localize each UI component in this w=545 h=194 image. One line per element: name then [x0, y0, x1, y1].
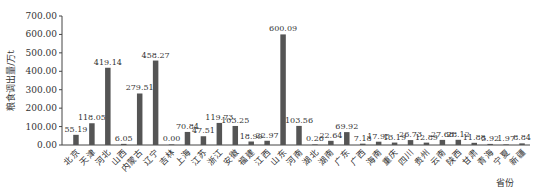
data-label: 47.51 — [192, 126, 215, 135]
data-label: 279.51 — [126, 83, 154, 92]
bar — [248, 142, 254, 145]
bar — [105, 68, 111, 145]
x-tick-label: 云南 — [428, 147, 448, 167]
y-tick-label: 300.00 — [26, 85, 58, 95]
x-tick-label: 辽宁 — [141, 147, 161, 167]
bar — [487, 144, 493, 145]
bar — [471, 143, 477, 145]
data-label: 0.00 — [163, 134, 181, 143]
x-tick-label: 广西 — [348, 147, 368, 167]
bar — [424, 143, 430, 145]
x-tick-label: 新疆 — [508, 147, 528, 167]
y-tick-label: 700.00 — [26, 11, 58, 21]
bar — [440, 140, 446, 145]
chart-canvas: 0.00100.00200.00300.00400.00500.00600.00… — [0, 0, 545, 194]
x-tick-label: 青海 — [476, 147, 496, 167]
x-tick-label: 福建 — [237, 147, 257, 167]
bar — [360, 144, 366, 145]
bar — [376, 142, 382, 145]
x-tick-label: 广东 — [332, 147, 352, 167]
x-tick-label: 贵州 — [412, 147, 432, 167]
bar — [312, 144, 318, 145]
x-tick-label: 甘肃 — [460, 147, 480, 167]
bar — [296, 126, 302, 145]
bar — [408, 140, 414, 145]
y-tick-label: 600.00 — [26, 29, 58, 39]
bar — [217, 123, 223, 145]
bar — [233, 126, 239, 145]
bar — [201, 136, 207, 145]
data-label: 118.05 — [78, 113, 106, 122]
bar — [519, 143, 525, 145]
x-tick-label: 江西 — [253, 147, 273, 167]
bar — [121, 144, 127, 145]
data-label: 69.92 — [335, 122, 358, 131]
x-tick-label: 陕西 — [444, 147, 464, 167]
bar — [137, 93, 143, 145]
y-tick-label: 500.00 — [26, 48, 58, 58]
bar — [185, 132, 191, 145]
bar — [456, 140, 462, 145]
x-tick-label: 江苏 — [189, 147, 209, 167]
data-label: 600.09 — [269, 24, 297, 33]
x-tick-label: 天津 — [78, 147, 98, 167]
x-tick-label: 上海 — [173, 147, 193, 167]
y-axis-label: 粮食调出量/万t — [5, 50, 16, 111]
bar — [169, 144, 175, 145]
y-tick-label: 200.00 — [26, 103, 58, 113]
x-tick-label: 吉林 — [157, 147, 177, 167]
y-tick-label: 100.00 — [26, 122, 58, 132]
x-tick-label: 山东 — [269, 147, 289, 167]
bar — [153, 61, 159, 145]
y-tick-label: 0.00 — [37, 140, 57, 150]
data-label: 55.19 — [65, 125, 88, 134]
bar — [264, 141, 270, 145]
bar — [392, 143, 398, 145]
bar — [328, 141, 334, 145]
data-label: 103.56 — [285, 116, 313, 125]
bar — [89, 123, 95, 145]
bar — [73, 135, 79, 145]
x-axis-label: 省份 — [496, 177, 514, 188]
bar — [503, 144, 509, 145]
bar — [280, 34, 286, 145]
x-tick-label: 浙江 — [205, 147, 225, 167]
data-label: 22.97 — [256, 131, 279, 140]
data-label: 8.84 — [513, 133, 531, 142]
x-tick-label: 四川 — [396, 147, 416, 167]
x-tick-label: 安徽 — [221, 147, 241, 167]
x-tick-label: 海南 — [364, 147, 384, 167]
x-tick-label: 北京 — [62, 147, 82, 167]
bar-chart: 0.00100.00200.00300.00400.00500.00600.00… — [0, 0, 545, 194]
x-tick-label: 重庆 — [380, 147, 400, 167]
x-tick-label: 湖北 — [301, 147, 321, 167]
data-label: 458.27 — [142, 51, 170, 60]
x-tick-label: 河北 — [93, 147, 113, 167]
y-tick-label: 400.00 — [26, 66, 58, 76]
x-tick-label: 宁夏 — [492, 147, 512, 167]
data-label: 103.25 — [221, 116, 249, 125]
data-label: 419.14 — [94, 58, 122, 67]
x-tick-label: 湖南 — [316, 147, 336, 167]
data-label: 6.05 — [115, 134, 133, 143]
x-tick-label: 河南 — [285, 147, 305, 167]
bar — [344, 132, 350, 145]
data-label: 22.64 — [319, 131, 342, 140]
